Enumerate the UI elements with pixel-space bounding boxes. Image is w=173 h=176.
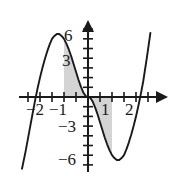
- x-tick-label-1: 1: [101, 101, 110, 118]
- y-tick-label-3: 3: [62, 52, 71, 69]
- graph-figure: 6 3 −3 −6 −2 −1 1 2: [0, 0, 173, 176]
- x-tick-label-neg1: −1: [49, 101, 67, 118]
- x-axis-arrow-icon: [156, 91, 168, 103]
- y-axis-arrow-icon: [82, 20, 94, 32]
- y-tick-label-neg3: −3: [58, 118, 76, 135]
- y-tick-label-neg6: −6: [58, 151, 76, 168]
- y-tick-label-6: 6: [64, 27, 73, 44]
- coordinate-plot: [0, 0, 173, 176]
- x-tick-label-2: 2: [125, 101, 134, 118]
- x-tick-label-neg2: −2: [26, 101, 44, 118]
